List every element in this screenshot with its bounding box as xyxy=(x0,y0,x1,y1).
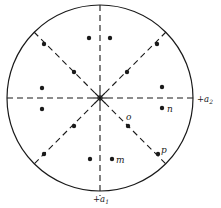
pole-point xyxy=(72,124,76,128)
axis-label-a2: +a2 xyxy=(197,94,213,105)
stereographic-projection: n o p m +a2 +a1 xyxy=(0,0,221,208)
pole-point-n xyxy=(160,106,164,110)
pole-point xyxy=(108,36,112,40)
pole-point xyxy=(87,36,91,40)
label-n: n xyxy=(167,104,173,114)
pole-point xyxy=(160,85,164,89)
label-m: m xyxy=(116,155,125,165)
label-o: o xyxy=(126,112,132,122)
pole-point xyxy=(40,86,44,90)
axis-a2-main: +a xyxy=(197,94,209,104)
axis-label-a1: +a1 xyxy=(93,194,109,205)
pole-point xyxy=(40,107,44,111)
label-p: p xyxy=(161,145,167,155)
pole-point xyxy=(155,42,159,46)
pole-point-m xyxy=(110,157,114,161)
pole-point xyxy=(88,157,92,161)
pole-point xyxy=(125,70,129,74)
pole-point-o xyxy=(126,124,130,128)
axis-a2-sub: 2 xyxy=(208,98,213,105)
axis-a1-sub: 1 xyxy=(105,198,109,205)
pole-point xyxy=(42,152,46,156)
pole-point-p xyxy=(156,152,160,156)
pole-point xyxy=(72,70,76,74)
pole-point xyxy=(42,42,46,46)
center-symmetry-icon xyxy=(93,91,107,105)
axis-a1-main: +a xyxy=(93,194,105,204)
